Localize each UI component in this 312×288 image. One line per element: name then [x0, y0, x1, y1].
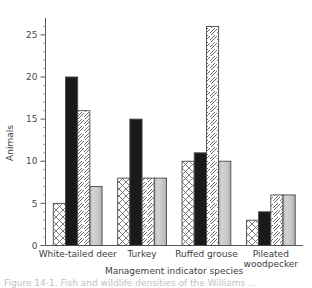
x-axis-title: Management indicator species	[105, 266, 244, 276]
figure-caption: Figure 14-1. Fish and wildlife densities…	[4, 278, 310, 288]
bar-ruffed-grouse-light-gray	[219, 161, 231, 245]
y-tick-label: 10	[26, 156, 38, 166]
bar-ruffed-grouse-crosshatch	[182, 161, 194, 245]
y-axis-title: Animals	[5, 125, 15, 161]
y-tick-label: 15	[26, 114, 37, 124]
bar-pileated-woodpecker-solid-black	[259, 212, 271, 246]
bar-turkey-light-gray	[154, 178, 166, 245]
bar-pileated-woodpecker-light-gray	[283, 195, 295, 246]
bar-white-tailed-deer-crosshatch	[53, 203, 65, 245]
category-label-0: White-tailed deer	[39, 249, 117, 259]
bar-turkey-crosshatch	[118, 178, 130, 245]
category-label-1: Turkey	[126, 249, 157, 259]
category-label-2: Ruffed grouse	[175, 249, 238, 259]
bar-ruffed-grouse-diagonal-hatch	[206, 26, 218, 245]
y-tick-group: 0510152025	[26, 26, 45, 250]
bar-pileated-woodpecker-crosshatch	[246, 220, 258, 245]
bar-turkey-diagonal-hatch	[142, 178, 154, 245]
bar-turkey-solid-black	[130, 119, 142, 245]
category-label-3: Pileated	[253, 249, 289, 259]
y-tick-label: 20	[26, 72, 38, 82]
bar-white-tailed-deer-solid-black	[65, 77, 77, 246]
bars-group	[53, 26, 295, 245]
y-tick-label: 25	[26, 30, 37, 40]
bar-pileated-woodpecker-diagonal-hatch	[271, 195, 283, 246]
category-label-3-line2: woodpecker	[244, 259, 299, 269]
bar-white-tailed-deer-diagonal-hatch	[78, 111, 90, 246]
bar-white-tailed-deer-light-gray	[90, 187, 102, 246]
bar-ruffed-grouse-solid-black	[194, 153, 206, 246]
y-tick-label: 0	[32, 241, 38, 251]
y-tick-label: 5	[32, 199, 38, 209]
